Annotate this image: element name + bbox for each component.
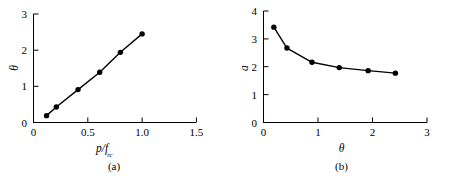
data-point <box>365 68 370 73</box>
panel-b-x-axis-label-text: θ <box>339 142 345 154</box>
panel-b-xtick-3: 3 <box>424 126 430 138</box>
panel-b-y-ticks <box>264 11 269 123</box>
data-point <box>75 87 80 92</box>
figure-container: 0 0.5 1.0 1.5 0 1 2 3 θ p/frc (a) <box>0 0 455 178</box>
data-point <box>309 60 314 65</box>
data-point <box>139 31 144 36</box>
data-point <box>44 113 49 118</box>
data-point <box>54 104 59 109</box>
data-point <box>393 70 398 75</box>
panel-b-x-ticks <box>264 118 428 123</box>
panel-a-caption: (a) <box>0 160 228 172</box>
panel-b-x-axis-label: θ <box>228 142 455 154</box>
panel-a-plot: 0 0.5 1.0 1.5 0 1 2 3 <box>0 0 228 178</box>
panel-b-data-line <box>274 27 396 73</box>
data-point <box>337 65 342 70</box>
panel-b-y-axis-label: a <box>238 53 250 83</box>
panel-b-ytick-2: 2 <box>252 61 258 73</box>
data-point <box>97 70 102 75</box>
panel-a-ytick-3: 3 <box>22 8 28 20</box>
panel-a-y-axis-label: θ <box>8 53 20 83</box>
panel-a-xtick-0: 0 <box>31 126 37 138</box>
panel-b-ytick-4: 4 <box>252 5 258 17</box>
panel-a-xtick-3: 1.5 <box>190 126 204 138</box>
panel-b-y-axis-label-text: a <box>238 65 250 71</box>
panel-a-ytick-1: 1 <box>22 80 28 92</box>
panel-b-xtick-2: 2 <box>370 126 376 138</box>
panel-a-x-axis-label-subscript: rc <box>107 151 113 159</box>
panel-b-caption: (b) <box>228 160 455 172</box>
panel-b-ytick-1: 1 <box>252 89 258 101</box>
panel-b-xtick-0: 0 <box>261 126 267 138</box>
panel-a-ytick-2: 2 <box>22 44 28 56</box>
data-point <box>284 45 289 50</box>
panel-a-data-line <box>47 34 143 116</box>
panel-a-x-ticks <box>34 118 197 123</box>
panel-a: 0 0.5 1.0 1.5 0 1 2 3 θ p/frc (a) <box>0 0 228 178</box>
data-point <box>118 50 123 55</box>
data-point <box>271 24 276 29</box>
panel-a-x-axis-label: p/frc <box>96 142 114 157</box>
panel-a-xtick-2: 1.0 <box>135 126 149 138</box>
panel-b-ytick-0: 0 <box>252 117 258 129</box>
panel-b-xtick-1: 1 <box>315 126 321 138</box>
panel-b: 0 1 2 3 0 1 2 3 4 a θ (b) <box>228 0 455 178</box>
panel-a-xtick-1: 0.5 <box>81 126 95 138</box>
panel-a-y-axis-label-text: θ <box>8 65 20 71</box>
panel-b-ytick-3: 3 <box>252 33 258 45</box>
panel-a-y-ticks <box>34 14 39 123</box>
panel-a-ytick-0: 0 <box>22 117 28 129</box>
